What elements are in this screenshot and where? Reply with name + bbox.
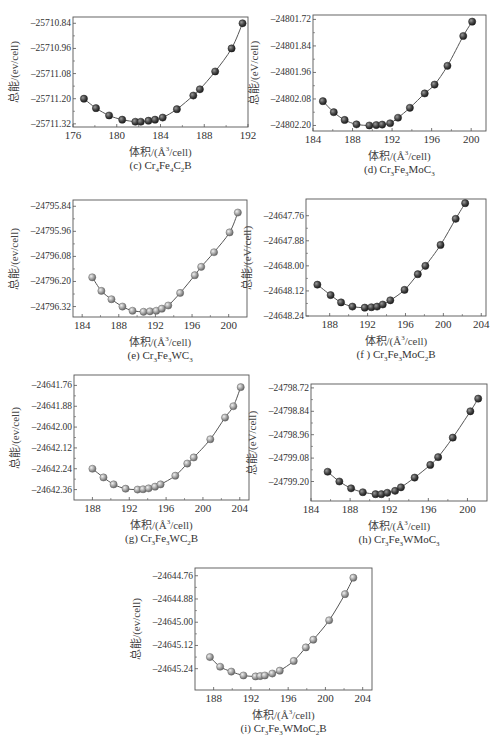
x-tick-label: 184 — [152, 129, 169, 141]
data-point — [212, 68, 219, 75]
data-point — [110, 481, 117, 488]
x-tick-label: 192 — [147, 319, 164, 331]
data-point — [469, 18, 476, 25]
data-point — [100, 474, 107, 481]
x-tick-label: 200 — [435, 318, 452, 330]
plot-frame — [73, 200, 247, 317]
y-tick-label: –24798.96 — [268, 430, 310, 440]
panel-g: –24641.76–24641.88–24642.00–24642.12–246… — [0, 370, 250, 555]
data-point — [145, 117, 152, 124]
data-point — [184, 460, 191, 467]
data-point — [366, 122, 373, 129]
data-point — [437, 241, 444, 248]
data-point — [237, 384, 244, 391]
y-tick-label: –24802.08 — [270, 94, 312, 104]
y-tick-label: –24802.20 — [270, 120, 312, 130]
data-point — [159, 114, 166, 121]
x-tick-label: 188 — [344, 133, 361, 145]
chart-c: –25710.84–25710.96–25711.08–25711.20–257… — [0, 0, 250, 190]
data-point — [330, 109, 337, 116]
data-point — [190, 454, 197, 461]
data-point — [353, 121, 360, 128]
data-point — [239, 20, 246, 27]
y-tick-label: –24642.00 — [31, 422, 73, 432]
data-point — [98, 287, 105, 294]
x-tick-label: 192 — [121, 502, 138, 514]
fit-curve — [328, 399, 479, 495]
panel-f: –24647.76–24647.88–24648.00–24648.12–246… — [250, 190, 501, 375]
y-tick-label: –24796.20 — [30, 276, 72, 286]
x-axis-label: 体积/(Å3/cell) — [368, 517, 431, 533]
data-point — [210, 249, 217, 256]
y-tick-label: –24798.72 — [268, 383, 310, 393]
data-point — [80, 95, 87, 102]
y-tick-label: –24641.76 — [31, 380, 73, 390]
fit-curve — [317, 203, 465, 307]
x-tick-label: 184 — [303, 503, 320, 515]
data-point — [217, 663, 224, 670]
y-tick-label: –24796.32 — [30, 302, 72, 312]
y-tick-label: –25710.96 — [30, 43, 72, 53]
y-axis-label: 总能/(eV/cell) — [245, 41, 261, 105]
x-tick-label: 196 — [397, 318, 414, 330]
data-point — [427, 461, 434, 468]
chart-g: –24641.76–24641.88–24642.00–24642.12–246… — [0, 370, 250, 555]
figure-caption: (d) Cr3Fe3MoC3 — [364, 163, 435, 178]
x-tick-label: 196 — [184, 319, 201, 331]
data-point — [349, 303, 356, 310]
data-point — [198, 263, 205, 270]
figure-caption: (e) Cr3Fe3WC3 — [128, 349, 193, 364]
y-tick-label: –24801.96 — [270, 67, 312, 77]
data-point — [196, 86, 203, 93]
y-tick-label: –24648.24 — [263, 311, 305, 321]
data-point — [379, 301, 386, 308]
data-point — [119, 303, 126, 310]
data-point — [452, 215, 459, 222]
data-point — [319, 98, 326, 105]
x-tick-label: 200 — [459, 503, 476, 515]
data-point — [397, 484, 404, 491]
fit-curve — [92, 387, 240, 489]
data-point — [207, 436, 214, 443]
data-point — [350, 574, 357, 581]
x-tick-label: 192 — [384, 133, 401, 145]
data-point — [276, 667, 283, 674]
y-tick-label: –24644.76 — [152, 571, 194, 581]
data-point — [269, 670, 276, 677]
x-tick-label: 204 — [473, 318, 490, 330]
data-point — [173, 106, 180, 113]
figure-caption: (c) Cr4Fe4C2B — [130, 159, 192, 174]
data-point — [108, 296, 115, 303]
panel-e: –24795.84–24795.96–24796.08–24796.20–247… — [0, 190, 250, 370]
data-point — [234, 209, 241, 216]
fit-curve — [323, 22, 472, 126]
data-point — [336, 478, 343, 485]
data-point — [140, 308, 147, 315]
y-tick-label: –24647.76 — [263, 211, 305, 221]
data-point — [157, 481, 164, 488]
data-point — [379, 121, 386, 128]
x-tick-label: 188 — [205, 692, 222, 704]
y-tick-label: –24648.12 — [263, 286, 305, 296]
panel-i: –24644.76–24644.88–24645.00–24645.12–246… — [110, 560, 390, 741]
data-point — [384, 489, 391, 496]
y-tick-label: –24795.84 — [30, 201, 72, 211]
data-point — [475, 395, 482, 402]
x-axis-label: 体积/(Å3/cell) — [252, 706, 315, 722]
y-tick-label: –24647.88 — [263, 236, 305, 246]
data-point — [310, 636, 317, 643]
y-tick-label: –24799.08 — [268, 453, 310, 463]
data-point — [444, 62, 451, 69]
y-tick-label: –24795.96 — [30, 226, 72, 236]
x-axis-label: 体积/(Å3/cell) — [129, 143, 192, 159]
data-point — [394, 114, 401, 121]
data-point — [361, 304, 368, 311]
data-point — [228, 45, 235, 52]
data-point — [341, 116, 348, 123]
data-point — [105, 112, 112, 119]
x-tick-label: 196 — [420, 503, 437, 515]
x-tick-label: 200 — [317, 692, 334, 704]
data-point — [401, 286, 408, 293]
figure-caption: (g) Cr3Fe3WC2B — [125, 532, 198, 547]
x-tick-label: 204 — [232, 502, 249, 514]
